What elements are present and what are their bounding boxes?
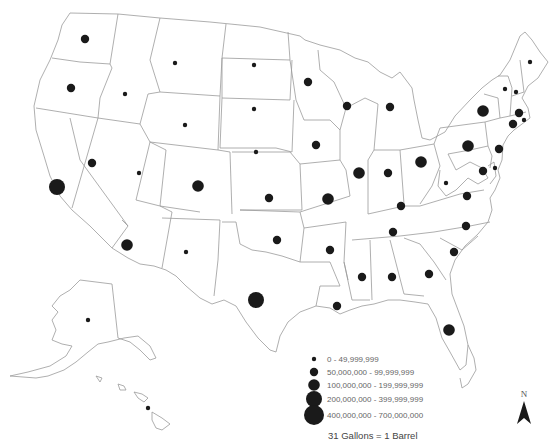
state-marker-wi — [343, 102, 351, 110]
state-marker-nj — [495, 145, 503, 153]
legend-symbol-2 — [310, 368, 318, 376]
state-marker-tx — [248, 292, 264, 308]
state-marker-ks — [265, 194, 273, 202]
state-marker-ne — [254, 150, 258, 154]
state-marker-mt — [173, 61, 177, 65]
state-marker-ri — [522, 118, 526, 122]
state-marker-ia — [312, 141, 320, 149]
state-marker-or — [67, 84, 75, 92]
legend: 0 - 49,999,99950,000,000 - 99,999,999100… — [304, 355, 424, 441]
state-marker-vt — [503, 87, 507, 91]
state-marker-sd — [252, 107, 256, 111]
state-marker-nv — [88, 159, 96, 167]
state-marker-nd — [252, 63, 256, 67]
state-marker-hi — [146, 406, 150, 410]
north-arrow: N — [517, 389, 531, 424]
state-marker-ar — [326, 246, 334, 254]
state-marker-pa — [462, 140, 474, 152]
state-marker-de — [493, 166, 497, 170]
legend-symbol-5 — [304, 405, 324, 425]
state-marker-ca — [49, 179, 65, 195]
legend-symbol-1 — [312, 357, 316, 361]
state-marker-nc — [462, 222, 470, 230]
hawaii-outline — [96, 376, 170, 430]
state-marker-al — [388, 273, 396, 281]
state-marker-la — [333, 302, 341, 310]
legend-label-3: 100,000,000 - 199,999,999 — [327, 381, 424, 390]
legend-label-5: 400,000,000 - 700,000,000 — [327, 411, 424, 420]
state-marker-va — [463, 192, 471, 200]
state-marker-nh — [514, 90, 518, 94]
legend-label-1: 0 - 49,999,999 — [327, 355, 379, 364]
state-marker-nm — [184, 250, 188, 254]
state-marker-id — [123, 92, 127, 96]
legend-label-2: 50,000,000 - 99,999,999 — [327, 368, 415, 377]
state-marker-wy — [183, 123, 187, 127]
state-marker-md — [479, 167, 487, 175]
state-marker-az — [121, 239, 133, 251]
alaska-outline — [10, 280, 156, 378]
legend-note: 31 Gallons = 1 Barrel — [328, 430, 418, 441]
state-marker-ut — [137, 171, 141, 175]
florida-outline — [460, 345, 476, 388]
state-marker-wa — [81, 35, 89, 43]
legend-symbol-3 — [308, 379, 320, 391]
state-marker-mn — [304, 78, 312, 86]
state-marker-il — [353, 167, 365, 179]
state-borders — [10, 13, 548, 430]
state-marker-ga — [425, 270, 433, 278]
state-marker-ky — [397, 202, 405, 210]
state-marker-ok — [273, 236, 281, 244]
us-map: 0 - 49,999,99950,000,000 - 99,999,999100… — [0, 0, 551, 447]
north-label: N — [521, 389, 528, 399]
state-marker-sc — [450, 248, 458, 256]
state-marker-mi — [386, 103, 394, 111]
state-marker-me — [528, 60, 532, 64]
legend-label-4: 200,000,000 - 399,999,999 — [327, 395, 424, 404]
state-marker-ma — [515, 109, 523, 117]
state-marker-mo — [322, 193, 334, 205]
state-marker-wv — [444, 181, 448, 185]
internal-borders — [36, 14, 526, 306]
state-marker-ny — [477, 105, 489, 117]
state-marker-co — [192, 180, 204, 192]
state-marker-oh — [415, 156, 427, 168]
legend-symbol-4 — [306, 391, 322, 407]
north-arrow-icon — [517, 401, 531, 424]
state-marker-ms — [358, 273, 366, 281]
state-marker-ct — [509, 120, 517, 128]
state-marker-tn — [389, 228, 397, 236]
state-marker-fl — [443, 324, 455, 336]
state-marker-in — [384, 169, 392, 177]
state-marker-ak — [86, 318, 90, 322]
